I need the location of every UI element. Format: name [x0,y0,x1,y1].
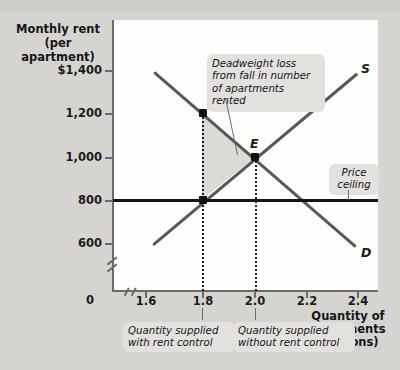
price-ceiling-leader-line [348,190,349,200]
y-axis-title-line1: Monthly rent [6,22,110,36]
supply-curve-label: S [361,61,370,76]
y-axis [112,20,114,292]
quantity-without-rent-control-note: Quantity supplied without rent control [233,322,355,352]
y-tick-label-1000: 1,000 [66,150,102,164]
point-equilibrium [251,153,259,161]
y-tick-label-800: 800 [78,193,102,207]
equilibrium-label: E [250,136,259,151]
deadweight-loss-callout-line1: Deadweight loss [212,58,320,70]
origin-label: 0 [86,293,94,307]
dotted-line-2-0 [255,161,257,291]
x-tick-label-2-4: 2.4 [338,294,378,308]
dotted-line-1-8 [202,117,204,291]
price-ceiling-callout-line2: ceiling [334,179,374,191]
deadweight-loss-callout-line2: from fall in number [212,70,320,82]
point-supply-at-ceiling [199,196,207,204]
quantity-with-rent-control-line1: Quantity supplied [128,325,230,337]
point-demand-at-quota [199,109,207,117]
y-tick-1000 [105,157,113,159]
y-axis-break-icon [106,256,120,274]
y-tick-label-1400: $1,400 [58,63,102,77]
quantity-with-rent-control-line2: with rent control [128,337,230,349]
y-tick-1200 [105,113,113,115]
y-tick-label-1200: 1,200 [66,106,102,120]
quantity-with-rent-control-note: Quantity supplied with rent control [123,322,235,352]
x-tick-label-2-0: 2.0 [235,294,275,308]
y-tick-label-600: 600 [78,236,102,250]
x-tick-label-1-8: 1.8 [183,294,223,308]
y-axis-title: Monthly rent (per apartment) [6,22,110,64]
quantity-without-control-tickline [255,308,256,320]
price-ceiling-callout: Price ceiling [329,164,379,195]
quantity-with-control-tickline [202,308,203,320]
x-axis [112,290,378,292]
deadweight-loss-callout: Deadweight loss from fall in number of a… [207,54,325,112]
quantity-without-rent-control-line1: Quantity supplied [238,325,350,337]
y-tick-800 [105,200,113,202]
deadweight-loss-callout-line3: of apartments rented [212,83,320,108]
rent-control-deadweight-loss-chart: $1,400 1,200 1,000 800 600 0 1.6 1.8 2.0… [0,0,400,370]
y-tick-600 [105,243,113,245]
x-tick-label-2-2: 2.2 [287,294,327,308]
price-ceiling-line [113,199,378,202]
quantity-without-rent-control-line2: without rent control [238,337,350,349]
demand-curve-label: D [361,245,371,260]
y-tick-1400 [105,70,113,72]
y-axis-title-line2: (per apartment) [6,36,110,64]
x-tick-label-1-6: 1.6 [126,294,166,308]
price-ceiling-callout-line1: Price [334,167,374,179]
